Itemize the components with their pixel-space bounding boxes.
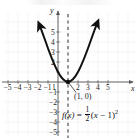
x-tick-label-2: 2	[76, 84, 80, 92]
equation-coefficient-fraction: 12	[85, 106, 91, 122]
x-tick-label-3: 3	[86, 84, 90, 92]
vertex-coordinate-label: (1, 0)	[74, 93, 91, 101]
y-tick-label-4: 4	[51, 39, 55, 47]
y-tick-label-neg4: −4	[49, 119, 57, 127]
y-tick-label-neg3: −3	[49, 109, 57, 117]
y-axis-label: y	[50, 7, 54, 15]
y-tick-label-neg2: −2	[49, 99, 57, 107]
fraction-numerator: 1	[85, 106, 91, 114]
function-equation: f(x) = 12(x − 1)2	[62, 106, 118, 122]
x-tick-label-neg3: −3	[24, 84, 32, 92]
y-tick-label-5: 5	[51, 29, 55, 37]
y-tick-label-2: 2	[51, 59, 55, 67]
equation-exponent: 2	[115, 109, 118, 115]
parabola-curve-right-branch	[68, 23, 97, 82]
y-tick-label-neg5: −5	[49, 129, 57, 137]
x-tick-label-neg5: −5	[4, 84, 12, 92]
y-tick-label-3: 3	[51, 49, 55, 57]
x-axis-label: x	[131, 85, 135, 93]
equation-equals-sign: =	[77, 110, 82, 120]
fraction-denominator: 2	[85, 114, 91, 123]
parabola-graph-figure: y x −5 −4 −3 −2 −1 2 3 4 5 5 4 3 2 1 −1 …	[0, 0, 140, 140]
equation-variable: x	[94, 110, 98, 120]
equation-minus-sign: −	[100, 110, 105, 120]
x-tick-label-neg4: −4	[14, 84, 22, 92]
x-tick-label-4: 4	[96, 84, 100, 92]
x-tick-label-5: 5	[106, 84, 110, 92]
equation-argument: (x)	[65, 110, 75, 120]
y-tick-label-neg1: −1	[49, 89, 57, 97]
x-tick-label-neg2: −2	[34, 84, 42, 92]
